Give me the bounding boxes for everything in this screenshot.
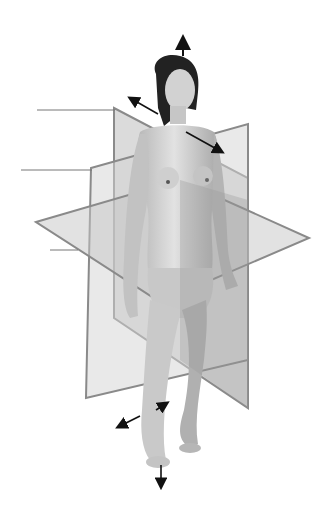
anatomical-planes-diagram [0, 0, 331, 517]
lateral-arrow-icon [118, 416, 140, 427]
left-foot [179, 443, 201, 453]
right-foot [146, 456, 170, 468]
diagram-canvas [0, 0, 331, 517]
head [165, 69, 195, 111]
posterior-arrow-icon [130, 98, 158, 114]
